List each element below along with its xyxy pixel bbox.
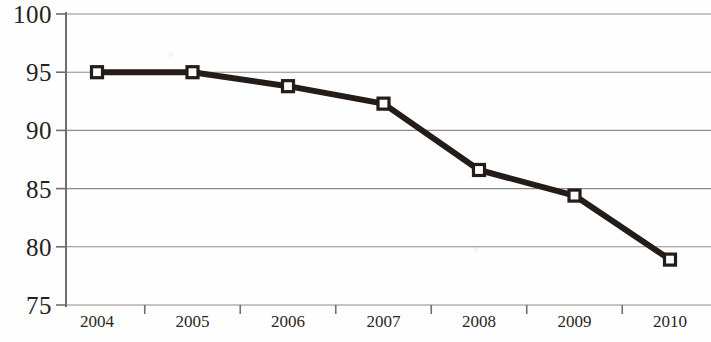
x-axis-tick-labels: 2004200520062007200820092010 [0, 0, 711, 342]
x-axis-label-2009: 2009 [533, 312, 617, 331]
x-axis-label-2010: 2010 [628, 312, 711, 331]
x-axis-label-2005: 2005 [151, 312, 235, 331]
line-chart: 7580859095100 20042005200620072008200920… [0, 0, 711, 342]
x-axis-label-2004: 2004 [55, 312, 139, 331]
x-axis-label-2008: 2008 [437, 312, 521, 331]
x-axis-label-2006: 2006 [246, 312, 330, 331]
x-axis-label-2007: 2007 [342, 312, 426, 331]
